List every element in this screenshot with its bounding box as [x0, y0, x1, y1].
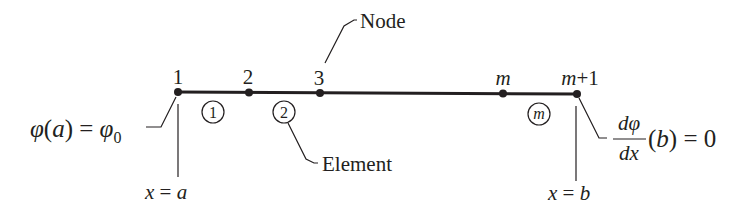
mesh-bar: [178, 92, 577, 94]
element-1-marker: 1: [202, 101, 224, 123]
fem-mesh-diagram: 1 2 3 m m+1 1 2 m Node Element φ(a) = φ0…: [0, 0, 752, 212]
right-position-label: x = b: [547, 181, 590, 205]
node-callout-label: Node: [360, 9, 406, 33]
element-callout-leader: [288, 123, 318, 163]
node-dot-3: [316, 89, 324, 97]
element-m-marker: m: [528, 103, 550, 125]
derivative-denominator: dx: [619, 141, 640, 165]
node-dot-1: [174, 88, 182, 96]
node-label-m: m: [495, 66, 510, 90]
node-label-3: 3: [314, 66, 325, 90]
node-label-m-plus-1: m+1: [561, 66, 599, 90]
node-label-2: 2: [243, 65, 254, 89]
left-position-label: x = a: [144, 180, 187, 204]
node-dot-2: [245, 89, 253, 97]
right-bc-leader: [579, 98, 607, 138]
node-dot-m-plus-1: [573, 90, 581, 98]
node-label-1: 1: [173, 65, 184, 89]
node-dot-m: [499, 90, 507, 98]
element-2-marker: 2: [273, 101, 295, 123]
node-callout-leader: [325, 20, 357, 63]
right-bc-condition: dφ dx (b) = 0: [613, 111, 716, 165]
element-label-m: m: [533, 105, 545, 122]
derivative-numerator: dφ: [618, 111, 641, 135]
element-callout-label: Element: [322, 152, 392, 176]
element-label-2: 2: [280, 104, 288, 121]
left-bc-leader: [146, 97, 176, 127]
element-label-1: 1: [209, 104, 217, 121]
left-bc-condition: φ(a) = φ0: [30, 115, 121, 146]
derivative-rest: (b) = 0: [648, 125, 716, 153]
